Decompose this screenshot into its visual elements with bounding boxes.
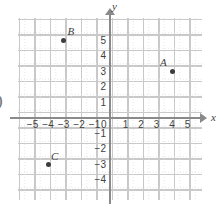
- y-tick-label: 3: [92, 67, 106, 77]
- x-tick-label: −4: [41, 120, 55, 130]
- y-tick-label: 4: [92, 51, 106, 61]
- x-axis-label: x: [211, 112, 216, 123]
- x-tick-label: 5: [181, 120, 195, 130]
- x-tick-label: −3: [57, 120, 71, 130]
- y-tick-label: 1: [92, 98, 106, 108]
- y-tick-label: −3: [92, 160, 106, 170]
- x-tick-label: 2: [134, 120, 148, 130]
- x-tick-label: −5: [26, 120, 40, 130]
- cropped-list-marker: ): [0, 92, 3, 109]
- data-point-a: [170, 69, 175, 74]
- data-point-label-a: A: [160, 57, 167, 68]
- data-point-b: [61, 38, 66, 43]
- x-tick-label: 1: [119, 120, 133, 130]
- coordinate-plane-figure: ) x y 0 −5−4−3−2−112345 54321−1−2−3−4 AB…: [0, 0, 223, 214]
- x-tick-label: 3: [150, 120, 164, 130]
- y-tick-label: 2: [92, 82, 106, 92]
- data-point-label-c: C: [51, 151, 58, 162]
- y-tick-label: 5: [92, 36, 106, 46]
- x-tick-label: 4: [165, 120, 179, 130]
- y-tick-label: −2: [92, 144, 106, 154]
- y-tick-label: −1: [92, 129, 106, 139]
- x-axis-arrowhead: [200, 113, 207, 123]
- y-axis-line: [109, 12, 111, 204]
- data-point-label-b: B: [68, 26, 75, 37]
- x-tick-label: −2: [72, 120, 86, 130]
- y-tick-label: −4: [92, 175, 106, 185]
- data-point-c: [46, 162, 51, 167]
- y-axis-label: y: [112, 1, 117, 12]
